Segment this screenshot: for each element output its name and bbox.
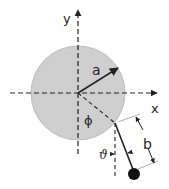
y-axis-label: y (63, 11, 71, 26)
theta-arrow-right (128, 152, 132, 153)
pendulum-bob (128, 168, 140, 180)
radius-label: a (92, 62, 101, 78)
phi-label: ϕ (84, 113, 93, 128)
x-axis-label: x (151, 101, 159, 116)
pendulum-on-disk-diagram: y x a ϕ ϑ b (0, 0, 169, 189)
pendulum-rod (115, 123, 134, 172)
length-label: b (143, 136, 152, 152)
dim-ext-bottom (138, 161, 158, 169)
theta-label: ϑ (99, 148, 108, 162)
dim-line-b-top (136, 117, 143, 130)
